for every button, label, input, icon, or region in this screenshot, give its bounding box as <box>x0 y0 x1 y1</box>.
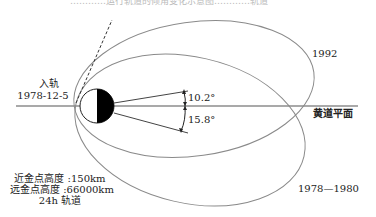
orbit-1992-ellipse <box>65 6 323 172</box>
angle-lower-label: 15.8° <box>188 114 215 125</box>
angle-upper-label: 10.2° <box>188 92 215 103</box>
angle-ray-lower <box>114 113 188 133</box>
ecliptic-plane-label: 黄道平面 <box>313 108 353 119</box>
perigee-altitude: 近金点高度 :150km <box>10 173 110 184</box>
orbit-period: 24h 轨道 <box>10 195 110 206</box>
orbit-insertion-date: 1978-12-5 <box>12 90 74 101</box>
orbit-insertion-title: 入轨 <box>24 78 74 89</box>
orbit-1992-label: 1992 <box>312 48 337 59</box>
apogee-altitude: 远金点高度 :66000km <box>10 184 110 195</box>
angle-ray-upper <box>114 91 188 103</box>
planet-icon <box>80 89 114 123</box>
orbit-1978-1980-label: 1978—1980 <box>298 183 359 194</box>
